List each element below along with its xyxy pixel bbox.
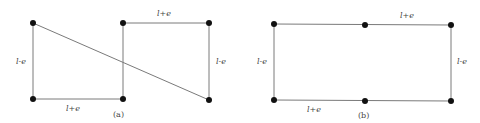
node-b-top-middle — [362, 22, 368, 28]
node-b-top-right — [448, 22, 454, 28]
node-a-top-left — [30, 20, 36, 26]
edge-a-diagonal — [33, 23, 209, 100]
caption-a: (a) — [113, 110, 124, 119]
label-a-left: l-e — [16, 57, 26, 66]
label-b-bottom: l+e — [307, 105, 321, 114]
panel-b: l-e l+e l+e l-e (b) — [257, 11, 467, 120]
label-a-bottom: l+e — [66, 104, 80, 113]
caption-b: (b) — [358, 111, 369, 120]
node-a-top-middle — [120, 20, 126, 26]
label-b-left: l-e — [257, 57, 267, 66]
node-b-bottom-right — [448, 98, 454, 104]
node-a-bottom-left — [30, 96, 36, 102]
node-a-bottom-middle — [120, 96, 126, 102]
node-a-top-right — [206, 20, 212, 26]
diagram-canvas: l-e l+e l+e l-e (a) l-e l+e l+e l-e (b) — [0, 0, 480, 123]
label-b-right: l-e — [457, 57, 467, 66]
label-b-top: l+e — [400, 11, 414, 20]
label-a-right: l-e — [216, 57, 226, 66]
node-b-top-left — [271, 21, 277, 27]
node-b-bottom-middle — [362, 98, 368, 104]
label-a-top: l+e — [157, 9, 171, 18]
node-b-bottom-left — [271, 97, 277, 103]
node-a-bottom-right — [206, 97, 212, 103]
panel-a: l-e l+e l+e l-e (a) — [16, 9, 226, 119]
